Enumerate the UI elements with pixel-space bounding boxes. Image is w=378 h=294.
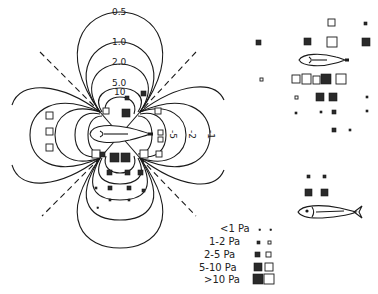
contour-label-2.0: 2.0 [112, 57, 127, 67]
bottom-lobe-contours [77, 156, 162, 248]
contour-label-neg5: -5 [168, 130, 178, 139]
legend: <1 Pa 1-2 Pa 2-5 Pa 5-10 Pa >10 Pa [199, 223, 274, 285]
contour-label-10: 10 [114, 87, 126, 97]
legend-label-gt10: >10 Pa [204, 274, 240, 285]
right-marker-grid [256, 19, 370, 132]
legend-label-5-10: 5-10 Pa [199, 262, 237, 273]
legend-label-2-5: 2-5 Pa [204, 249, 235, 260]
fish-drawing-icon [298, 206, 362, 218]
contour-label-neg1: -1 [206, 130, 216, 139]
fish-outline-icon [90, 126, 153, 143]
legend-label-lt1: <1 Pa [220, 223, 250, 234]
contour-label-0.5: 0.5 [112, 7, 126, 17]
pressure-field-diagram: 0.5 1.0 2.0 5.0 10 -5 -2 -1 [0, 0, 378, 294]
legend-label-1-2: 1-2 Pa [209, 236, 240, 247]
contour-label-neg2: -2 [187, 130, 197, 139]
fish-outline-icon [299, 54, 349, 65]
detailed-fish-group [298, 175, 362, 218]
contour-label-1.0: 1.0 [112, 37, 127, 47]
